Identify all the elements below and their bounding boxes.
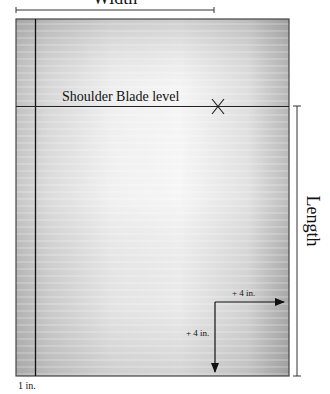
plus-four-horizontal-label: + 4 in.	[232, 288, 255, 298]
plus-four-vertical-label: + 4 in.	[186, 328, 209, 338]
shoulder-blade-label: Shoulder Blade level	[62, 89, 180, 104]
pattern-diagram: Width Shoulder Blade level Length + 4 in…	[0, 0, 330, 394]
length-dimension: Length	[293, 106, 323, 376]
fabric-panel	[16, 19, 289, 376]
one-inch-label: 1 in.	[18, 380, 36, 391]
length-label: Length	[303, 196, 323, 247]
width-label: Width	[93, 0, 137, 8]
width-dimension: Width	[16, 0, 214, 13]
